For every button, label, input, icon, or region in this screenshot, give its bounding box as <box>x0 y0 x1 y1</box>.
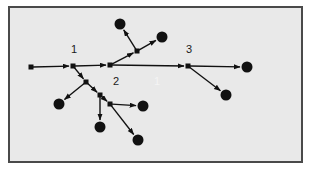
graph-edge <box>112 65 184 66</box>
edges-layer <box>33 30 240 135</box>
graph-edge <box>112 104 136 105</box>
graph-node-junction <box>108 102 113 107</box>
graph-edge <box>64 83 84 99</box>
figure-root: 1 2 3 1 <box>0 0 313 170</box>
graph-node-leaf <box>157 32 168 43</box>
graph-node-leaf <box>133 135 144 146</box>
graph-edge <box>190 66 240 67</box>
graph-edge <box>139 40 156 50</box>
graph-node-leaf <box>54 99 65 110</box>
graph-edge <box>124 30 136 49</box>
graph-node-junction <box>84 80 89 85</box>
graph-edge <box>112 53 134 64</box>
graph-node-leaf <box>242 62 253 73</box>
graph-node-leaf <box>221 90 232 101</box>
graph-edge <box>74 68 83 79</box>
graph-node-leaf <box>138 101 149 112</box>
graph-node-junction <box>135 49 140 54</box>
graph-edge <box>87 83 97 92</box>
node-label-3: 3 <box>186 44 192 55</box>
graph-node-leaf <box>95 122 106 133</box>
graph-node-leaf <box>115 19 126 30</box>
graph-node-junction <box>98 93 103 98</box>
graph-node-junction <box>186 64 191 69</box>
node-label-1: 1 <box>71 44 77 55</box>
graph-node-junction <box>108 63 113 68</box>
node-label-faint-one: 1 <box>154 76 160 87</box>
nodes-layer <box>29 19 253 146</box>
node-label-2: 2 <box>113 76 119 87</box>
graph-edge <box>190 67 221 91</box>
graph-edge <box>111 106 133 135</box>
graph-edge <box>75 65 106 66</box>
graph-edge <box>33 66 69 67</box>
graph-node-junction <box>29 65 34 70</box>
graph-node-junction <box>71 64 76 69</box>
